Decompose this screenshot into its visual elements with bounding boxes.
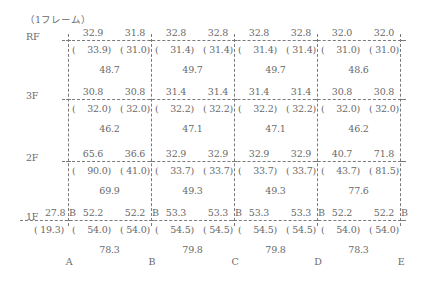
joint-tick — [149, 40, 154, 41]
midspan-value: 77.6 — [348, 185, 368, 196]
support-mark: B — [235, 207, 242, 218]
joint-tick — [398, 99, 403, 100]
midspan-value: 79.8 — [265, 244, 285, 255]
midspan-value: 46.2 — [348, 123, 368, 134]
midspan-value: 46.2 — [99, 123, 119, 134]
joint-tick — [315, 40, 320, 41]
paren-open: ( — [286, 44, 290, 55]
paren-open: ( — [203, 165, 207, 176]
paren-open: ( — [34, 224, 38, 235]
paren-open: ( — [72, 224, 76, 235]
paren-value-left: 54.0) — [336, 224, 360, 235]
midspan-value: 49.7 — [265, 64, 285, 75]
joint-tick — [232, 40, 237, 41]
paren-value-left: 33.9) — [87, 44, 111, 55]
paren-value-right: 41.0) — [126, 165, 150, 176]
paren-open: ( — [369, 44, 373, 55]
paren-open: ( — [72, 44, 76, 55]
beam-end-value-left: 52.2 — [332, 207, 352, 218]
paren-value-right: 32.2) — [292, 103, 316, 114]
midspan-value: 49.7 — [182, 64, 202, 75]
paren-value-right: 32.0) — [375, 103, 399, 114]
paren-open: ( — [155, 165, 159, 176]
beam-end-value-left: 40.7 — [332, 148, 352, 159]
beam-end-value-left: 32.0 — [332, 27, 352, 38]
paren-open: ( — [286, 165, 290, 176]
paren-open: ( — [120, 44, 124, 55]
joint-tick — [398, 40, 403, 41]
joint-tick — [315, 161, 320, 162]
column-line-e — [400, 34, 401, 226]
support-mark: B — [318, 207, 325, 218]
beam-end-value-right: 32.9 — [208, 148, 228, 159]
paren-value-right: 31.4) — [292, 44, 316, 55]
joint-tick — [149, 161, 154, 162]
midspan-value: 47.1 — [182, 123, 202, 134]
paren-open: ( — [286, 224, 290, 235]
paren-value-right: 32.2) — [209, 103, 233, 114]
beam-end-value-left: 32.9 — [83, 27, 103, 38]
midspan-value: 49.3 — [182, 185, 202, 196]
joint-tick — [66, 99, 71, 100]
midspan-value: 48.7 — [99, 64, 119, 75]
paren-open: ( — [321, 44, 325, 55]
cantilever-value-paren: 19.3) — [40, 224, 64, 235]
paren-open: ( — [203, 224, 207, 235]
paren-open: ( — [155, 224, 159, 235]
beam-end-value-right: 53.3 — [208, 207, 228, 218]
paren-open: ( — [238, 224, 242, 235]
support-mark: B — [152, 207, 159, 218]
beam-line-1f — [20, 220, 406, 221]
paren-open: ( — [203, 44, 207, 55]
paren-value-left: 32.0) — [87, 103, 111, 114]
axis-label-c: C — [231, 256, 238, 267]
beam-end-value-right: 30.8 — [125, 86, 145, 97]
beam-end-value-right: 52.2 — [374, 207, 394, 218]
beam-end-value-left: 30.8 — [332, 86, 352, 97]
column-line-a — [68, 34, 69, 226]
beam-end-value-left: 31.4 — [166, 86, 186, 97]
beam-end-value-left: 31.4 — [249, 86, 269, 97]
paren-value-right: 54.0) — [126, 224, 150, 235]
joint-tick — [232, 99, 237, 100]
joint-tick — [398, 220, 403, 221]
paren-value-left: 33.7) — [253, 165, 277, 176]
beam-end-value-right: 32.8 — [291, 27, 311, 38]
beam-end-value-right: 31.4 — [208, 86, 228, 97]
beam-end-value-left: 32.8 — [166, 27, 186, 38]
beam-end-value-right: 53.3 — [291, 207, 311, 218]
axis-label-e: E — [398, 256, 405, 267]
paren-value-left: 54.5) — [253, 224, 277, 235]
beam-end-value-right: 36.6 — [125, 148, 145, 159]
axis-label-a: A — [66, 256, 73, 267]
beam-end-value-left: 52.2 — [83, 207, 103, 218]
paren-value-right: 32.0) — [126, 103, 150, 114]
paren-value-left: 33.7) — [170, 165, 194, 176]
beam-end-value-right: 32.0 — [374, 27, 394, 38]
beam-end-value-left: 32.8 — [249, 27, 269, 38]
paren-value-right: 31.0) — [126, 44, 150, 55]
joint-tick — [232, 220, 237, 221]
joint-tick — [66, 40, 71, 41]
paren-open: ( — [120, 224, 124, 235]
beam-end-value-right: 32.8 — [208, 27, 228, 38]
joint-tick — [232, 161, 237, 162]
paren-open: ( — [72, 165, 76, 176]
paren-value-left: 31.0) — [336, 44, 360, 55]
paren-value-right: 81.5) — [375, 165, 399, 176]
midspan-value: 48.6 — [348, 64, 368, 75]
paren-open: ( — [72, 103, 76, 114]
paren-value-right: 33.7) — [292, 165, 316, 176]
paren-value-right: 54.5) — [292, 224, 316, 235]
beam-end-value-right: 32.9 — [291, 148, 311, 159]
midspan-value: 79.8 — [182, 244, 202, 255]
support-mark: B — [401, 207, 408, 218]
beam-end-value-right: 31.8 — [125, 27, 145, 38]
paren-value-left: 31.4) — [170, 44, 194, 55]
beam-end-value-left: 53.3 — [249, 207, 269, 218]
paren-open: ( — [238, 165, 242, 176]
axis-label-d: D — [314, 256, 321, 267]
beam-end-value-left: 53.3 — [166, 207, 186, 218]
joint-tick — [66, 161, 71, 162]
paren-value-left: 90.0) — [87, 165, 111, 176]
